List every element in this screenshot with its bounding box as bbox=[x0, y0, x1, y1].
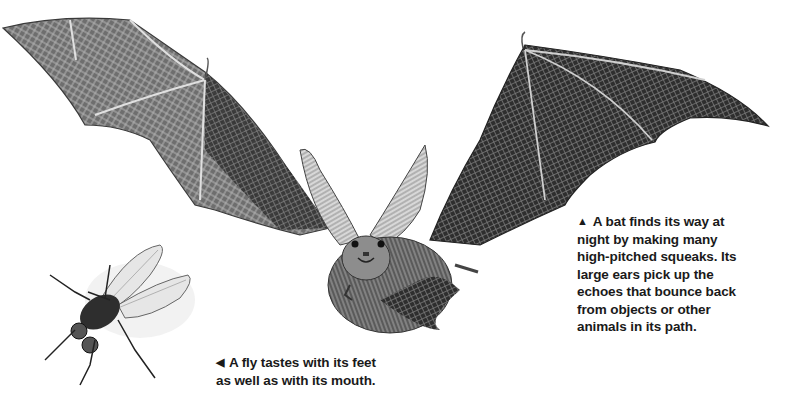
illustration-canvas bbox=[0, 0, 799, 408]
triangle-up-icon: ▲ bbox=[577, 213, 588, 231]
bat-eye-right bbox=[378, 241, 385, 248]
fly-caption-line: as well as with its mouth. bbox=[216, 372, 416, 390]
bat-caption-line: animals in its path. bbox=[577, 318, 777, 336]
bat-caption-line: high-pitched squeaks. Its bbox=[577, 248, 777, 266]
fly-caption-line: ◀A fly tastes with its feet bbox=[216, 354, 416, 372]
fly-illustration bbox=[45, 245, 195, 385]
bat-caption-line: echoes that bounce back bbox=[577, 283, 777, 301]
bat-caption-line: ▲A bat finds its way at bbox=[577, 213, 777, 231]
bat-caption-line: night by making many bbox=[577, 231, 777, 249]
bat-right-ear bbox=[370, 145, 428, 245]
bat-caption-line: large ears pick up the bbox=[577, 266, 777, 284]
bat-eye-left bbox=[352, 241, 359, 248]
fly-eye-right bbox=[82, 337, 98, 353]
bat-caption-line: from objects or other bbox=[577, 301, 777, 319]
bat-caption: ▲A bat finds its way at night by making … bbox=[577, 213, 777, 336]
triangle-left-icon: ◀ bbox=[216, 354, 224, 372]
fly-caption: ◀A fly tastes with its feet as well as w… bbox=[216, 354, 416, 389]
